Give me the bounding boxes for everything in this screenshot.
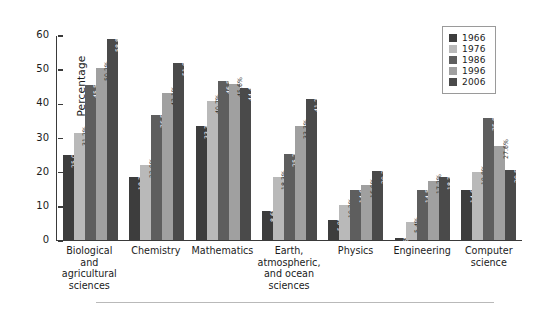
bar[interactable]: 43.1% <box>162 93 173 240</box>
x-axis-category-label: Physics <box>322 245 389 303</box>
bar[interactable]: 40.7% <box>207 101 218 240</box>
chart-legend: 19661976198619962006 <box>442 26 496 94</box>
bar[interactable]: 58.8% <box>107 39 118 240</box>
bar[interactable]: 45.6% <box>229 84 240 240</box>
y-axis-tick-label: 50 <box>36 63 49 74</box>
legend-swatch-icon <box>449 34 457 42</box>
bar-group: 5.9%10.2%14.6%16.0%20.2% <box>323 36 389 240</box>
bar-group: 18.3%22.0%36.5%43.1%51.8% <box>123 36 189 240</box>
x-axis-label-line: Physics <box>323 245 388 257</box>
bar-value-label: 51.8% <box>179 56 190 76</box>
bar[interactable]: 31.2% <box>74 133 85 240</box>
bar[interactable]: 14.5% <box>417 190 428 240</box>
x-axis-category-label: Mathematics <box>189 245 256 303</box>
x-axis-category-label: Biological andagriculturalsciences <box>56 245 123 303</box>
bar-value-label: 35.8% <box>489 111 500 131</box>
bar-value-label: 18.3% <box>444 170 455 190</box>
legend-label: 1976 <box>462 44 486 54</box>
bar[interactable]: 8.6% <box>262 211 273 240</box>
bar[interactable]: 51.8% <box>173 63 184 240</box>
bar[interactable]: 22.0% <box>140 165 151 240</box>
x-axis-category-label: Chemistry <box>123 245 190 303</box>
legend-label: 1986 <box>462 55 486 65</box>
bar-chart: Percentage 0102030405060 25.0%31.2%45.5%… <box>0 0 539 313</box>
legend-label: 1996 <box>462 66 486 76</box>
x-axis-category-label: Engineering <box>389 245 456 303</box>
legend-item[interactable]: 1966 <box>449 33 486 43</box>
bar-group: 33.3%40.7%46.5%45.6%44.4% <box>190 36 256 240</box>
bar-group: 8.6%18.3%25.2%33.3%41.2% <box>256 36 322 240</box>
bar[interactable]: 18.3% <box>129 177 140 240</box>
y-axis-tick-label: 0 <box>43 234 49 245</box>
bottom-divider <box>96 302 494 303</box>
bar-value-label: 20.2% <box>378 164 389 184</box>
y-axis-tick-label: 60 <box>36 29 49 40</box>
legend-item[interactable]: 1986 <box>449 55 486 65</box>
bar[interactable]: 18.3% <box>273 177 284 240</box>
bar[interactable]: 50.2% <box>96 68 107 240</box>
legend-swatch-icon <box>449 67 457 75</box>
bar[interactable]: 41.2% <box>306 99 317 240</box>
bar[interactable]: 5.4% <box>406 222 417 240</box>
x-axis-label-line: sciences <box>257 280 322 292</box>
x-axis-category-label: Earth,atmospheric,and oceansciences <box>256 245 323 303</box>
bar[interactable]: 27.6% <box>494 146 505 240</box>
bar[interactable]: 46.5% <box>218 81 229 240</box>
legend-item[interactable]: 1976 <box>449 44 486 54</box>
bar-value-label: 27.6% <box>500 139 511 159</box>
x-axis-label-line: sciences <box>57 280 122 292</box>
legend-label: 2006 <box>462 77 486 87</box>
bar[interactable]: 0.6% <box>395 238 406 240</box>
bar[interactable]: 20.2% <box>372 171 383 240</box>
bar[interactable]: 45.5% <box>85 85 96 240</box>
bar[interactable]: 44.4% <box>240 88 251 240</box>
bar[interactable]: 17.2% <box>428 181 439 240</box>
x-axis-label-line: science <box>456 257 521 269</box>
bar[interactable]: 10.2% <box>339 205 350 240</box>
legend-swatch-icon <box>449 78 457 86</box>
legend-swatch-icon <box>449 45 457 53</box>
bar-group: 25.0%31.2%45.5%50.2%58.8% <box>57 36 123 240</box>
bar[interactable]: 25.0% <box>63 155 74 240</box>
y-axis-tick-label: 20 <box>36 166 49 177</box>
bar[interactable]: 14.6% <box>461 190 472 240</box>
x-axis-label-line: Biological and <box>57 245 122 268</box>
bar-value-label: 20.5% <box>511 163 522 183</box>
bar[interactable]: 36.5% <box>151 115 162 240</box>
bar[interactable]: 35.8% <box>483 118 494 240</box>
bar[interactable]: 16.0% <box>361 185 372 240</box>
y-axis-tick-label: 40 <box>36 97 49 108</box>
legend-swatch-icon <box>449 56 457 64</box>
x-axis-label-line: Mathematics <box>190 245 255 257</box>
bar[interactable]: 18.3% <box>439 177 450 240</box>
bar[interactable]: 25.2% <box>284 154 295 240</box>
y-axis-tick-label: 30 <box>36 132 49 143</box>
bar[interactable]: 14.6% <box>350 190 361 240</box>
bar-value-label: 44.4% <box>245 81 256 101</box>
bar[interactable]: 5.9% <box>328 220 339 240</box>
x-axis-category-label: Computerscience <box>455 245 522 303</box>
x-axis-label-line: Computer <box>456 245 521 257</box>
bar[interactable]: 20.5% <box>505 170 516 240</box>
x-axis-label-line: and ocean <box>257 268 322 280</box>
bar[interactable]: 33.3% <box>196 126 207 240</box>
bar[interactable]: 19.8% <box>472 172 483 240</box>
bar-value-label: 41.2% <box>311 92 322 112</box>
x-axis-label-line: atmospheric, <box>257 257 322 269</box>
legend-label: 1966 <box>462 33 486 43</box>
y-axis-tick-label: 10 <box>36 200 49 211</box>
bar[interactable]: 33.3% <box>295 126 306 240</box>
legend-item[interactable]: 2006 <box>449 77 486 87</box>
legend-item[interactable]: 1996 <box>449 66 486 76</box>
bar-value-label: 58.8% <box>112 32 123 52</box>
x-axis-label-line: Chemistry <box>124 245 189 257</box>
x-axis-label-line: agricultural <box>57 268 122 280</box>
x-axis-label-line: Engineering <box>390 245 455 257</box>
x-axis-label-line: Earth, <box>257 245 322 257</box>
x-axis-labels: Biological andagriculturalsciencesChemis… <box>56 245 522 303</box>
